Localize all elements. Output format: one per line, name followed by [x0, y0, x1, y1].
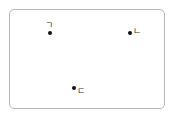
label-digeut: ㄷ	[77, 87, 85, 96]
point-digeut	[72, 86, 76, 90]
diagram-frame	[9, 9, 165, 109]
point-giyeok	[48, 31, 52, 35]
point-nieun	[128, 31, 132, 35]
label-giyeok: ㄱ	[45, 21, 53, 30]
label-nieun: ㄴ	[133, 27, 141, 36]
